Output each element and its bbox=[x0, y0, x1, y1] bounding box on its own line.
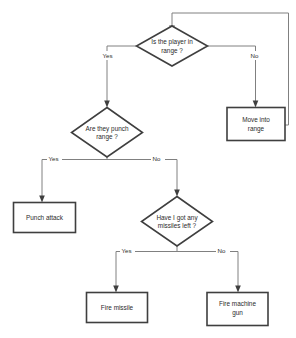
edge-label-punch-no: No bbox=[153, 155, 161, 162]
flowchart-svg: Yes No Yes No Yes No Is the player in ra… bbox=[0, 0, 296, 338]
node-decision-punch-range[interactable]: Are they punch range ? bbox=[72, 108, 143, 158]
flowchart-canvas: Yes No Yes No Yes No Is the player in ra… bbox=[0, 0, 296, 338]
decision-missiles-left-label-line1: Have I got any bbox=[156, 214, 198, 222]
decision-in-range-label-line1: Is the player in bbox=[151, 38, 193, 46]
edge-label-in-range-no: No bbox=[251, 52, 259, 59]
arrow-into-move-into-range bbox=[253, 101, 259, 108]
arrow-into-punch-attack bbox=[39, 196, 45, 203]
node-decision-in-range[interactable]: Is the player in range ? bbox=[137, 26, 208, 66]
arrow-into-fire-machine-gun bbox=[235, 286, 241, 293]
decision-missiles-left-label-line2: missiles left ? bbox=[158, 222, 197, 229]
node-process-fire-missile[interactable]: Fire missile bbox=[87, 293, 148, 323]
node-process-punch-attack[interactable]: Punch attack bbox=[14, 203, 76, 233]
edge-label-in-range-yes: Yes bbox=[103, 52, 113, 59]
decision-punch-range-label-line2: range ? bbox=[96, 133, 118, 141]
process-punch-attack-label-line1: Punch attack bbox=[26, 214, 64, 221]
arrow-into-punch-range-diamond bbox=[104, 101, 110, 108]
process-move-into-range-label-line2: range bbox=[248, 125, 265, 133]
process-fire-missile-label-line1: Fire missile bbox=[101, 304, 134, 311]
edge-label-missiles-no: No bbox=[218, 247, 226, 254]
edge-in-range-no-path bbox=[208, 46, 256, 101]
edge-label-missiles-yes: Yes bbox=[122, 247, 132, 254]
process-fire-machine-gun-label-line1: Fire machine bbox=[219, 300, 256, 307]
edge-label-punch-yes: Yes bbox=[49, 155, 59, 162]
node-process-fire-machine-gun[interactable]: Fire machine gun bbox=[207, 293, 268, 326]
arrow-into-missiles-diamond bbox=[174, 190, 180, 197]
arrow-into-fire-missile bbox=[113, 286, 119, 293]
decision-in-range-label-line2: range ? bbox=[161, 47, 183, 55]
decision-punch-range-label-line1: Are they punch bbox=[86, 125, 129, 133]
process-fire-machine-gun-label-line2: gun bbox=[232, 309, 243, 317]
process-move-into-range-label-line1: Move into bbox=[242, 116, 270, 123]
node-decision-missiles-left[interactable]: Have I got any missiles left ? bbox=[142, 197, 213, 247]
process-move-into-range-shape[interactable] bbox=[227, 108, 285, 141]
node-process-move-into-range[interactable]: Move into range bbox=[227, 108, 285, 141]
